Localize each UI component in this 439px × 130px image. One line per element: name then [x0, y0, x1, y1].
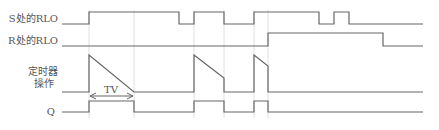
r-rlo-label: R处的RLO [2, 35, 58, 46]
timing-diagram-canvas [0, 0, 439, 130]
s-rlo-label: S处的RLO [2, 13, 58, 24]
r-rlo-waveform [62, 33, 423, 46]
q-waveform [62, 101, 423, 112]
timing-diagram: S处的RLO R处的RLO 定时器 操作 Q TV [0, 0, 439, 130]
timer-label-line2: 操作 [2, 78, 54, 89]
s-rlo-waveform [62, 12, 423, 24]
q-label: Q [2, 106, 55, 117]
tv-label: TV [100, 84, 122, 95]
timer-label-line1: 定时器 [2, 66, 58, 77]
